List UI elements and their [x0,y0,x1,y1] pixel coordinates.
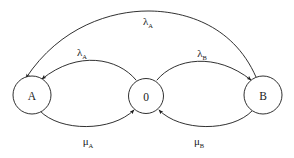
state-transition-diagram: A 0 B λA λA λB μA μB [0,0,294,158]
edge-zero-to-b-path [157,61,251,80]
edge-label-a-to-zero: μA [83,135,94,149]
node-a: A [13,76,51,114]
edge-zero-to-a-path [42,60,136,80]
node-b-label: B [259,90,267,102]
edge-label-zero-to-b-subscript: B [203,54,208,61]
node-zero: 0 [129,79,164,114]
edge-label-b-to-zero-subscript: B [200,142,205,149]
edge-b-to-a-path [26,11,256,78]
diagram-canvas: A 0 B λA λA λB μA μB [0,0,294,158]
edge-label-zero-to-b: λB [197,47,207,61]
edge-label-zero-to-a-subscript: A [82,53,87,60]
node-a-label: A [28,90,37,102]
edge-label-b-to-a: λA [143,15,153,29]
edge-label-b-to-a-subscript: A [148,22,153,29]
edge-label-zero-to-a: λA [77,46,87,60]
node-zero-label: 0 [143,91,149,103]
node-b: B [244,76,282,114]
edge-b-to-zero-path [159,110,252,127]
edge-a-to-zero-path [40,110,134,127]
edge-label-b-to-zero: μB [194,135,205,149]
edge-label-a-to-zero-subscript: A [89,142,94,149]
